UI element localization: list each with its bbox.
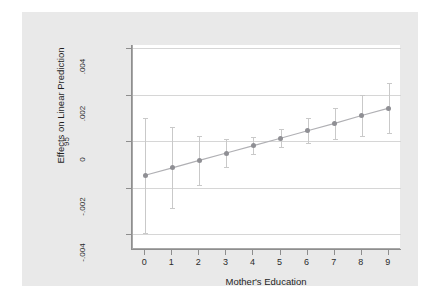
error-bar-cap [224, 139, 229, 140]
x-axis-tick [361, 250, 362, 255]
x-axis-title: Mother's Education [132, 276, 400, 287]
error-bar-cap [333, 108, 338, 109]
y-axis-tick-label: -.004 [78, 232, 87, 272]
x-axis-tick [280, 250, 281, 255]
error-bar-cap [387, 133, 392, 134]
x-axis-tick [171, 250, 172, 255]
screenshot-root: 95 Effects on Linear Prediction .004.002… [0, 0, 432, 298]
y-axis-tick-label: .004 [78, 47, 87, 87]
x-axis-tick-label: 8 [350, 257, 372, 267]
error-bar-cap [197, 136, 202, 137]
y-axis-tick [126, 95, 132, 96]
x-axis-tick-label: 3 [214, 257, 236, 267]
y-axis-tick [126, 48, 132, 49]
x-axis-tick [388, 250, 389, 255]
y-axis-spine [131, 45, 132, 250]
data-point-marker [224, 151, 229, 156]
error-bar-cap [170, 127, 175, 128]
error-bar-cap [306, 118, 311, 119]
data-point-marker [332, 121, 337, 126]
error-bar-cap [279, 129, 284, 130]
x-axis-tick [307, 250, 308, 255]
y-axis-tick-label: .002 [78, 93, 87, 133]
figure-card: 95 Effects on Linear Prediction .004.002… [22, 12, 418, 286]
data-point-marker [170, 165, 175, 170]
x-axis-tick-label: 7 [323, 257, 345, 267]
data-layer [133, 45, 401, 249]
x-axis-tick [144, 250, 145, 255]
error-bar-cap [197, 185, 202, 186]
x-axis-tick [252, 250, 253, 255]
error-bar-cap [360, 95, 365, 96]
data-point-marker [278, 136, 283, 141]
error-bar-cap [360, 136, 365, 137]
x-axis-tick-label: 9 [377, 257, 399, 267]
x-axis-tick [198, 250, 199, 255]
error-bar-cap [306, 143, 311, 144]
data-point-marker [143, 173, 148, 178]
data-point-marker [305, 128, 310, 133]
error-bar-cap [333, 139, 338, 140]
error-bar-cap [224, 167, 229, 168]
x-axis-tick [334, 250, 335, 255]
data-point-marker [386, 106, 391, 111]
x-axis-tick-label: 6 [296, 257, 318, 267]
error-bar-cap [170, 208, 175, 209]
error-bar-cap [143, 118, 148, 119]
data-point-marker [251, 143, 256, 148]
error-bar-cap [279, 147, 284, 148]
error-bar-cap [251, 154, 256, 155]
error-bar-cap [251, 137, 256, 138]
error-bar-cap [143, 233, 148, 234]
y-axis-tick [126, 188, 132, 189]
x-axis-tick-label: 4 [241, 257, 263, 267]
x-axis-tick-label: 1 [160, 257, 182, 267]
y-axis-tick-label: 0 [78, 140, 87, 180]
x-axis-tick-label: 2 [187, 257, 209, 267]
y-axis-tick [126, 141, 132, 142]
y-axis-tick [126, 234, 132, 235]
y-axis-tick-label: -.002 [78, 186, 87, 226]
x-axis-tick-label: 5 [269, 257, 291, 267]
data-point-marker [359, 113, 364, 118]
x-axis-tick [225, 250, 226, 255]
error-bar-cap [387, 83, 392, 84]
y-axis-title: Effects on Linear Prediction [55, 16, 66, 196]
data-point-marker [197, 158, 202, 163]
x-axis-tick-label: 0 [133, 257, 155, 267]
plot-area [132, 45, 400, 249]
